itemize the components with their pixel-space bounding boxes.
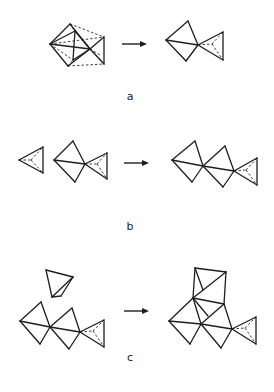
panel-b-label: b — [127, 220, 134, 233]
hidden-edge — [93, 320, 104, 331]
panel-c-reactant-polyhedra — [20, 270, 104, 349]
polyhedron-edge — [50, 24, 70, 44]
hidden-edge — [245, 328, 256, 344]
polyhedron-edge — [54, 141, 73, 160]
polyhedron-edge — [195, 268, 203, 290]
polyhedron-edge — [221, 329, 232, 348]
polyhedron-edge — [75, 164, 85, 182]
polyhedron-edge — [80, 332, 104, 347]
hidden-edge — [245, 317, 256, 328]
polyhedron-edge — [198, 32, 223, 45]
panel-b-reactant-polyhedra — [19, 141, 107, 182]
hidden-edge — [212, 44, 223, 60]
panel-b-reaction-arrow-icon — [124, 160, 149, 166]
polyhedron-edge — [232, 317, 256, 329]
polyhedron-edge — [73, 141, 85, 164]
polyhedron-edge — [192, 166, 203, 182]
hidden-edge — [97, 164, 107, 179]
polyhedron-edge — [80, 320, 104, 332]
panel-a-product-polyhedra — [166, 21, 223, 61]
polyhedron-edge — [72, 308, 80, 332]
polyhedron-edge — [169, 321, 190, 344]
polyhedron-edge — [172, 141, 195, 160]
polyhedron-edge — [169, 298, 193, 321]
panel-c-product-polyhedra — [169, 268, 256, 348]
panel-b — [19, 141, 257, 187]
hidden-edge — [93, 331, 104, 347]
polyhedron-edge — [234, 158, 257, 171]
polyhedron-edge — [169, 321, 201, 324]
hidden-edge — [31, 147, 43, 160]
polyhedron-edge — [223, 171, 234, 187]
polyhedron-edge — [224, 272, 226, 304]
polyhedron-edge — [54, 160, 85, 164]
polyhedron-edge — [186, 45, 198, 61]
panel-c — [20, 268, 256, 349]
polyhedron-edge — [190, 324, 201, 344]
polyhedron-edge — [50, 31, 75, 44]
panel-a — [50, 21, 223, 66]
polyhedron-edge — [85, 153, 107, 164]
polyhedron-edge — [19, 160, 43, 173]
hidden-edge — [68, 64, 104, 66]
polyhedron-edge — [232, 329, 256, 344]
polyhedron-edge — [188, 21, 198, 45]
polyhedron-edge — [195, 141, 203, 166]
hidden-edge — [246, 170, 257, 185]
polyhedron-edge — [85, 164, 107, 179]
polyhedron-edge — [50, 308, 72, 327]
polyhedron-edge — [50, 44, 90, 49]
polyhedron-edge — [203, 146, 225, 166]
polyhedron-edge — [90, 49, 104, 64]
polyhedron-edge — [73, 31, 75, 60]
polyhedron-edge — [225, 146, 234, 171]
polyhedron-edge — [75, 31, 90, 49]
polyhedron-edge — [46, 270, 52, 297]
polyhedron-edge — [20, 302, 41, 321]
polyhedron-edge — [41, 302, 50, 327]
panel-c-reaction-arrow-icon — [124, 308, 149, 314]
polyhedron-edge — [46, 270, 73, 277]
panel-b-product-polyhedra — [172, 141, 257, 187]
polyhedron-edge — [201, 304, 224, 324]
panel-a-reaction-arrow-icon — [122, 41, 147, 47]
reaction-diagram — [0, 0, 274, 392]
polyhedron-edge — [19, 147, 43, 160]
panel-a-reactant-polyhedra — [50, 24, 104, 66]
polyhedron-edge — [234, 171, 257, 185]
polyhedron-edge — [40, 327, 50, 344]
polyhedron-edge — [69, 332, 80, 349]
polyhedron-edge — [54, 160, 75, 182]
polyhedron-edge — [224, 304, 232, 329]
polyhedron-edge — [198, 45, 223, 60]
hidden-edge — [212, 32, 223, 44]
hidden-edge — [31, 160, 43, 173]
polyhedron-edge — [201, 324, 221, 348]
polyhedron-edge — [201, 324, 232, 329]
polyhedron-edge — [166, 21, 188, 40]
hidden-edge — [97, 153, 107, 164]
polyhedron-edge — [193, 268, 195, 298]
panel-a-label: a — [127, 90, 134, 103]
polyhedron-edge — [73, 49, 90, 60]
polyhedron-edge — [195, 268, 226, 272]
panel-c-label: c — [127, 351, 133, 364]
